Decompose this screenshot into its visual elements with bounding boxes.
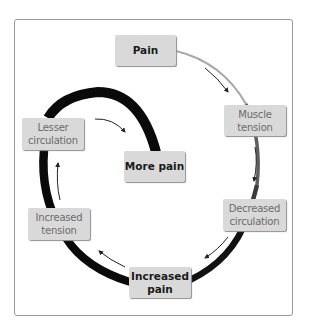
node-lesser-circulation-line2: circulation: [28, 134, 78, 147]
node-muscle-tension-line2: tension: [237, 121, 272, 134]
node-increased-pain-line1: Increased: [131, 270, 189, 283]
node-decreased-circulation-line2: circulation: [230, 215, 280, 228]
arrow-muscle-to-decreased: [254, 147, 256, 181]
node-increased-tension-line1: Increased: [36, 211, 83, 224]
node-more-pain: More pain: [124, 151, 185, 182]
arrow-increased-tension-to-lesser: [57, 163, 60, 200]
node-pain-label: Pain: [133, 44, 159, 57]
arrow-pain-to-muscle-tension: [205, 68, 228, 92]
node-lesser-circulation: Lesser circulation: [22, 118, 84, 150]
node-pain: Pain: [115, 35, 176, 66]
node-decreased-circulation: Decreased circulation: [223, 199, 286, 231]
node-muscle-tension-line1: Muscle: [238, 108, 271, 121]
arrow-lesser-to-more-pain: [95, 119, 125, 132]
node-muscle-tension: Muscle tension: [224, 105, 286, 136]
arrow-increased-pain-to-increased-tension: [99, 251, 125, 267]
node-increased-tension-line2: tension: [41, 224, 76, 237]
node-increased-pain-line2: pain: [147, 283, 173, 296]
node-decreased-circulation-line1: Decreased: [229, 202, 280, 215]
node-lesser-circulation-line1: Lesser: [37, 121, 68, 134]
node-increased-pain: Increased pain: [129, 267, 191, 298]
outer-arc: [176, 51, 258, 280]
node-more-pain-label: More pain: [125, 160, 184, 173]
node-increased-tension: Increased tension: [28, 208, 90, 240]
